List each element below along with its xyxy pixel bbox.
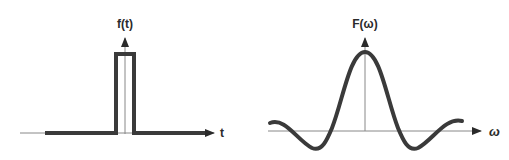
- F-of-omega-label: F(ω): [352, 17, 377, 31]
- fourier-pair-diagram: f(t) t F(ω) ω: [0, 0, 509, 160]
- t-label: t: [220, 126, 224, 140]
- time-domain-plot: f(t) t: [20, 17, 224, 140]
- frequency-domain-plot: F(ω) ω: [268, 17, 500, 149]
- sinc-curve: [270, 52, 462, 149]
- omega-label: ω: [489, 124, 500, 139]
- f-of-t-label: f(t): [117, 17, 133, 31]
